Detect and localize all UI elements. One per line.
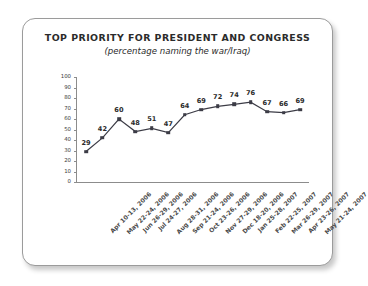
data-point-label: 66: [279, 101, 288, 108]
y-tick-label: 100: [49, 74, 71, 79]
data-point-label: 76: [246, 90, 255, 97]
data-point-label: 60: [114, 107, 123, 114]
data-point-label: 64: [180, 103, 189, 110]
data-point-label: 67: [262, 100, 271, 107]
y-tick-label: 20: [49, 158, 71, 163]
data-point-label: 29: [81, 140, 90, 147]
data-point-marker: [183, 113, 187, 117]
data-point-marker: [117, 117, 121, 121]
y-tick-mark: [74, 88, 77, 89]
data-point-marker: [216, 105, 220, 109]
y-tick-label: 60: [49, 116, 71, 121]
x-tick-label: Apr 10-13, 2006: [109, 191, 152, 234]
data-point-label: 72: [213, 94, 222, 101]
y-tick-label: 80: [49, 95, 71, 100]
data-point-marker: [282, 111, 286, 115]
x-tick-label: May 22-24, 2006: [126, 191, 171, 236]
y-tick-label: 50: [49, 127, 71, 132]
y-tick-mark: [74, 140, 77, 141]
data-point-label: 47: [164, 121, 173, 128]
data-point-marker: [84, 150, 88, 154]
data-point-marker: [150, 127, 154, 131]
y-tick-mark: [74, 172, 77, 173]
data-point-marker: [265, 110, 269, 114]
x-tick-label: Jul 24-27, 2006: [158, 191, 199, 232]
chart-title: TOP PRIORITY FOR PRESIDENT AND CONGRESS: [23, 32, 332, 43]
y-tick-mark: [74, 109, 77, 110]
data-point-label: 48: [131, 120, 140, 127]
data-point-label: 69: [197, 98, 206, 105]
data-point-label: 42: [98, 126, 107, 133]
data-point-marker: [166, 131, 170, 135]
x-tick-label: Aug 28-31, 2006: [175, 191, 219, 235]
y-axis-line: [76, 77, 77, 182]
y-tick-label: 30: [49, 148, 71, 153]
y-tick-mark: [74, 182, 77, 183]
data-point-label: 51: [147, 116, 156, 123]
series-line: [23, 19, 334, 267]
y-tick-mark: [74, 77, 77, 78]
y-tick-mark: [74, 119, 77, 120]
data-point-marker: [249, 100, 253, 104]
x-tick-label: Mar 26-29, 2007: [291, 191, 335, 235]
data-point-marker: [101, 136, 105, 140]
x-tick-label: Oct 23-26, 2006: [208, 191, 251, 234]
y-tick-label: 70: [49, 106, 71, 111]
data-point-label: 69: [295, 98, 304, 105]
x-tick-label: Sep 21-24, 2006: [192, 191, 236, 235]
y-tick-mark: [74, 98, 77, 99]
x-tick-label: Dec 18-20, 2006: [241, 191, 285, 235]
y-tick-label: 90: [49, 85, 71, 90]
x-tick-label: Feb 22-25, 2007: [274, 191, 317, 234]
x-tick-label: Jun 26-29, 2006: [142, 191, 184, 233]
x-axis-line: [76, 182, 309, 183]
y-tick-mark: [74, 151, 77, 152]
y-tick-label: 0: [49, 179, 71, 184]
y-tick-mark: [74, 161, 77, 162]
x-tick-label: May 21-24, 2007: [324, 191, 368, 236]
x-tick-label: Apr 23-26, 2007: [307, 191, 350, 234]
y-tick-mark: [74, 130, 77, 131]
chart-card: TOP PRIORITY FOR PRESIDENT AND CONGRESS …: [22, 18, 333, 266]
y-tick-label: 40: [49, 137, 71, 142]
data-point-marker: [232, 102, 236, 106]
y-tick-label: 10: [49, 169, 71, 174]
chart-subtitle: (percentage naming the war/Iraq): [23, 46, 332, 56]
x-tick-label: Jan 25-28, 2007: [257, 191, 299, 233]
data-point-marker: [298, 108, 302, 112]
plot-area: 100908070605040302010029Apr 10-13, 20064…: [23, 19, 334, 267]
x-tick-label: Nov 27-29, 2006: [225, 191, 269, 235]
data-point-label: 74: [230, 92, 239, 99]
data-point-marker: [134, 130, 138, 134]
data-point-marker: [199, 108, 203, 112]
